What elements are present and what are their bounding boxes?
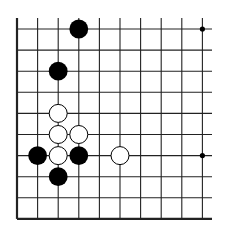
go-board [0, 0, 228, 237]
board-grid [17, 18, 212, 219]
star-point-icon [200, 153, 205, 158]
black-stone-icon [49, 62, 68, 81]
black-stone-icon [28, 146, 47, 165]
black-stone-icon [69, 20, 88, 39]
white-stone-icon [49, 104, 67, 122]
white-stone-icon [49, 126, 67, 144]
star-point-icon [200, 26, 205, 31]
white-stone-icon [49, 147, 67, 165]
black-stone-icon [49, 167, 68, 186]
black-stone-icon [69, 146, 88, 165]
white-stone-icon [111, 147, 129, 165]
white-stone-icon [70, 126, 88, 144]
